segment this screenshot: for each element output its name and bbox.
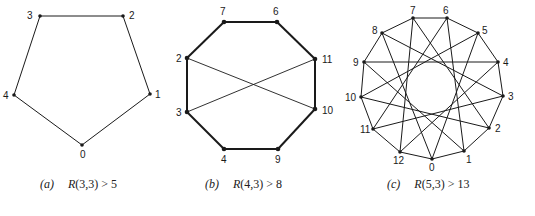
vertex-label: 2 bbox=[495, 123, 501, 134]
edge bbox=[123, 16, 150, 94]
vertex-label: 11 bbox=[360, 124, 371, 135]
edge bbox=[82, 94, 150, 145]
vertex-label: 9 bbox=[353, 57, 359, 68]
vertex-label: 9 bbox=[275, 154, 281, 165]
vertex-dot bbox=[359, 95, 363, 99]
vertex-dot bbox=[501, 94, 505, 98]
vertex-dot bbox=[275, 20, 280, 25]
caption-b-tag: (b) bbox=[205, 177, 219, 191]
edge bbox=[382, 18, 413, 33]
vertex-label: 3 bbox=[508, 91, 514, 102]
vertex-label: 0 bbox=[80, 149, 86, 160]
edge bbox=[187, 59, 315, 112]
vertex-label: 4 bbox=[503, 57, 509, 68]
vertex-label: 5 bbox=[482, 25, 488, 36]
vertex-label: 6 bbox=[443, 5, 449, 16]
edge bbox=[464, 128, 489, 151]
graph-c-13-circulant: 0123456789101112 bbox=[345, 5, 514, 173]
caption-a: (a)R(3,3) > 5 bbox=[40, 177, 117, 192]
vertex-label: 1 bbox=[155, 89, 161, 100]
vertex-dot bbox=[12, 93, 16, 97]
vertex-label: 4 bbox=[221, 154, 227, 165]
edge bbox=[187, 58, 315, 109]
vertex-label: 3 bbox=[27, 10, 33, 21]
edge bbox=[432, 33, 478, 159]
vertex-label: 7 bbox=[220, 6, 226, 17]
vertex-dot bbox=[313, 107, 318, 112]
edge bbox=[277, 22, 315, 59]
vertex-label: 11 bbox=[322, 54, 333, 65]
vertex-label: 12 bbox=[393, 155, 405, 166]
vertex-label: 0 bbox=[429, 162, 435, 173]
vertex-dot bbox=[362, 60, 366, 64]
edge bbox=[447, 18, 464, 151]
vertex-dot bbox=[445, 16, 449, 20]
caption-a-text: (3,3) > 5 bbox=[75, 177, 117, 191]
vertex-dot bbox=[462, 149, 466, 153]
caption-b: (b)R(4,3) > 8 bbox=[205, 177, 282, 192]
vertex-dot bbox=[185, 110, 190, 115]
edge bbox=[400, 152, 432, 159]
vertex-label: 3 bbox=[176, 107, 182, 118]
edge bbox=[447, 18, 478, 33]
vertex-dot bbox=[430, 157, 434, 161]
edge bbox=[373, 96, 503, 129]
caption-c-text: (5,3) > 13 bbox=[422, 177, 470, 191]
vertex-dot bbox=[148, 92, 152, 96]
edge bbox=[14, 95, 82, 145]
vertex-dot bbox=[276, 147, 281, 152]
caption-c-tag: (c) bbox=[387, 177, 400, 191]
vertex-dot bbox=[80, 143, 84, 147]
edge bbox=[187, 22, 224, 58]
vertex-dot bbox=[487, 126, 491, 130]
vertex-label: 10 bbox=[345, 92, 357, 103]
graph-b-octagon: 7611109432 bbox=[176, 6, 334, 165]
vertex-label: 10 bbox=[322, 105, 334, 116]
edge bbox=[361, 97, 489, 128]
vertex-dot bbox=[222, 20, 227, 25]
edge bbox=[432, 151, 464, 159]
vertex-label: 8 bbox=[372, 25, 378, 36]
vertex-dot bbox=[185, 56, 190, 61]
vertex-label: 6 bbox=[273, 6, 279, 17]
vertex-label: 2 bbox=[176, 53, 182, 64]
caption-c: (c)R(5,3) > 13 bbox=[387, 177, 469, 192]
vertex-dot bbox=[371, 127, 375, 131]
caption-c-r: R bbox=[414, 177, 421, 191]
vertex-dot bbox=[476, 31, 480, 35]
edge bbox=[364, 33, 382, 62]
caption-a-tag: (a) bbox=[40, 177, 54, 191]
edge bbox=[361, 62, 364, 97]
vertex-dot bbox=[398, 150, 402, 154]
edge bbox=[478, 33, 498, 62]
vertex-label: 7 bbox=[410, 5, 416, 16]
vertex-label: 4 bbox=[3, 90, 9, 101]
vertex-dot bbox=[496, 60, 500, 64]
graph-a-pentagon: 01234 bbox=[3, 10, 161, 160]
vertex-dot bbox=[313, 57, 318, 62]
vertex-dot bbox=[411, 16, 415, 20]
edge bbox=[278, 109, 315, 149]
vertex-dot bbox=[380, 31, 384, 35]
caption-b-text: (4,3) > 8 bbox=[240, 177, 282, 191]
vertex-dot bbox=[222, 147, 227, 152]
vertex-dot bbox=[121, 14, 125, 18]
edge bbox=[373, 129, 400, 152]
edge bbox=[187, 112, 224, 149]
vertex-dot bbox=[38, 14, 42, 18]
vertex-label: 2 bbox=[129, 10, 135, 21]
vertex-label: 1 bbox=[466, 154, 472, 165]
edge bbox=[14, 16, 40, 95]
